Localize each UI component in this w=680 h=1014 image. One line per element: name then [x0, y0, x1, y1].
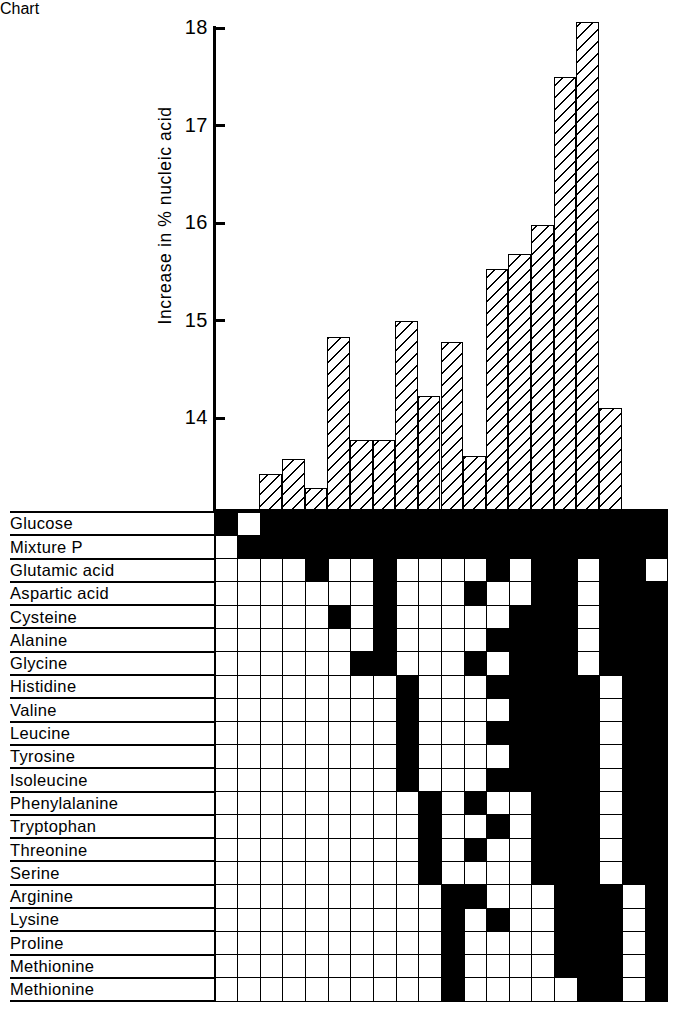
matrix-cell [351, 722, 374, 745]
matrix-cell [260, 838, 283, 861]
row-label-proline: Proline [10, 931, 215, 954]
matrix-cell [623, 559, 646, 582]
matrix-cell [555, 838, 578, 861]
matrix-cell [351, 745, 374, 768]
matrix-cell [441, 978, 464, 1001]
matrix-cell [328, 559, 351, 582]
table-row: Proline [10, 931, 668, 954]
matrix-cell [396, 535, 419, 558]
bar-9 [395, 321, 418, 511]
matrix-cell [532, 815, 555, 838]
matrix-cell [351, 978, 374, 1001]
matrix-cell [645, 722, 668, 745]
matrix-cell [260, 745, 283, 768]
matrix-cell [623, 675, 646, 698]
matrix-cell [328, 512, 351, 535]
matrix-cell [555, 955, 578, 978]
matrix-cell [238, 628, 261, 651]
matrix-cell [306, 605, 329, 628]
matrix-cell [577, 861, 600, 884]
matrix-cell [600, 792, 623, 815]
y-tick-label-17: 17 [172, 115, 208, 135]
matrix-cell [373, 931, 396, 954]
matrix-cell [283, 885, 306, 908]
matrix-cell [577, 698, 600, 721]
matrix-cell [487, 908, 510, 931]
matrix-cell [645, 978, 668, 1001]
matrix-cell [238, 722, 261, 745]
table-row: Glycine [10, 652, 668, 675]
matrix-cell [487, 535, 510, 558]
matrix-cell [396, 955, 419, 978]
matrix-cell [419, 698, 442, 721]
matrix-cell [260, 582, 283, 605]
matrix-cell [577, 955, 600, 978]
matrix-cell [464, 582, 487, 605]
matrix-cell [373, 908, 396, 931]
matrix-cell [464, 722, 487, 745]
matrix-cell [464, 978, 487, 1001]
matrix-cell [215, 745, 238, 768]
matrix-cell [464, 931, 487, 954]
matrix-cell [600, 931, 623, 954]
matrix-cell [396, 698, 419, 721]
matrix-cell [306, 535, 329, 558]
matrix-cell [328, 722, 351, 745]
matrix-cell [238, 838, 261, 861]
matrix-cell [306, 838, 329, 861]
matrix-cell [419, 582, 442, 605]
table-row: Mixture P [10, 535, 668, 558]
table-row: Methionine [10, 978, 668, 1001]
matrix-cell [532, 768, 555, 791]
matrix-cell [441, 605, 464, 628]
bar-chart: Increase in % nucleic acid 1817161514 [0, 0, 680, 512]
matrix-cell [373, 512, 396, 535]
bar-7 [350, 440, 373, 512]
matrix-cell [419, 955, 442, 978]
matrix-cell [283, 559, 306, 582]
matrix-cell [577, 535, 600, 558]
matrix-cell [487, 838, 510, 861]
matrix-cell [238, 605, 261, 628]
matrix-cell [623, 792, 646, 815]
matrix-cell [396, 768, 419, 791]
matrix-cell [306, 559, 329, 582]
matrix-cell [600, 861, 623, 884]
matrix-cell [623, 745, 646, 768]
matrix-cell [645, 792, 668, 815]
matrix-cell [441, 559, 464, 582]
bar-10 [418, 396, 441, 511]
row-label-arginine: Arginine [10, 885, 215, 908]
matrix-cell [238, 768, 261, 791]
row-label-glutamic-acid: Glutamic acid [10, 559, 215, 582]
matrix-cell [373, 628, 396, 651]
matrix-cell [532, 512, 555, 535]
matrix-cell [555, 908, 578, 931]
matrix-cell [600, 838, 623, 861]
y-axis-tick-labels: 1817161514 [168, 0, 208, 512]
matrix-cell [396, 512, 419, 535]
matrix-cell [645, 815, 668, 838]
matrix-cell [373, 768, 396, 791]
matrix-cell [441, 745, 464, 768]
matrix-cell [464, 815, 487, 838]
matrix-table: GlucoseMixture PGlutamic acidAspartic ac… [10, 511, 668, 1002]
matrix-cell [532, 861, 555, 884]
matrix-cell [600, 605, 623, 628]
matrix-cell [351, 955, 374, 978]
bar-18 [599, 408, 622, 511]
matrix-cell [351, 815, 374, 838]
matrix-cell [509, 698, 532, 721]
matrix-cell [373, 955, 396, 978]
matrix-cell [645, 605, 668, 628]
matrix-cell [441, 815, 464, 838]
bar-5 [305, 488, 328, 511]
matrix-cell [260, 815, 283, 838]
matrix-cell [532, 955, 555, 978]
matrix-cell [487, 512, 510, 535]
bar-3 [259, 474, 282, 511]
matrix-cell [328, 768, 351, 791]
bar-11 [441, 342, 464, 511]
row-label-histidine: Histidine [10, 675, 215, 698]
matrix-cell [441, 535, 464, 558]
